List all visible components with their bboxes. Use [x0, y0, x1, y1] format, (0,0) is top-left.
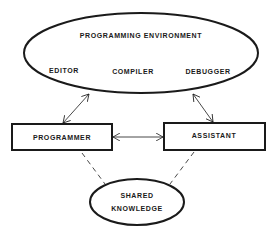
programmer-knowledge-link — [82, 153, 105, 184]
environment-programmer-arrow — [63, 94, 89, 123]
assistant-node: ASSISTANT — [164, 123, 265, 150]
diagram-canvas: PROGRAMMING ENVIRONMENT EDITOR COMPILER … — [0, 0, 275, 233]
programming-environment-title: PROGRAMMING ENVIRONMENT — [80, 32, 202, 39]
shared-knowledge: SHARED KNOWLEDGE — [90, 179, 184, 225]
environment-assistant-arrow — [193, 94, 213, 122]
compiler-label: COMPILER — [112, 68, 154, 75]
shared-knowledge-ellipse — [90, 179, 184, 225]
shared-knowledge-line2: KNOWLEDGE — [111, 205, 163, 212]
programming-environment-ellipse — [24, 13, 258, 93]
debugger-label: DEBUGGER — [185, 68, 230, 75]
programmer-label: PROGRAMMER — [33, 134, 91, 141]
assistant-label: ASSISTANT — [192, 132, 237, 139]
assistant-knowledge-link — [170, 152, 194, 184]
programmer-node: PROGRAMMER — [12, 124, 112, 150]
editor-label: EDITOR — [49, 67, 79, 74]
programming-environment: PROGRAMMING ENVIRONMENT EDITOR COMPILER … — [24, 13, 258, 93]
shared-knowledge-line1: SHARED — [120, 192, 153, 199]
